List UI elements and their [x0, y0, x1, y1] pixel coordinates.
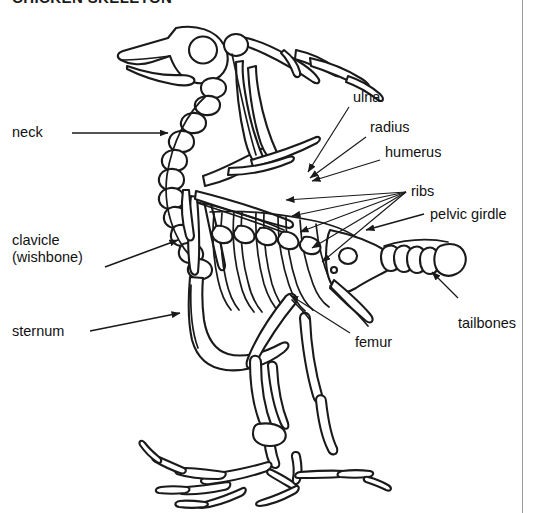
radius-leader-line [310, 137, 366, 178]
label-radius: radius [370, 119, 410, 136]
figure-page: CHICKEN SKELETON [0, 0, 541, 513]
ribs-leader-line-5 [322, 192, 406, 262]
femur-leader-line [290, 295, 350, 333]
humerus-leader-line [312, 160, 380, 181]
label-pelvic-girdle: pelvic girdle [430, 206, 507, 223]
ulna-leader-line [308, 107, 349, 172]
pelvic-girdle-leader-line [366, 214, 424, 230]
ribs-leader-line-4 [312, 192, 406, 248]
label-tailbones: tailbones [458, 315, 516, 332]
label-clavicle-line1: clavicle [12, 232, 112, 249]
label-ribs: ribs [411, 183, 434, 200]
label-ulna: ulna [353, 89, 380, 106]
label-femur: femur [355, 334, 392, 351]
clavicle-leader-line [105, 240, 178, 267]
sternum-leader-line [90, 313, 180, 331]
label-humerus: humerus [385, 144, 441, 161]
label-sternum: sternum [12, 323, 64, 340]
label-clavicle-line2: (wishbone) [12, 249, 112, 266]
tailbones-leader-line [432, 272, 458, 298]
label-clavicle: clavicle (wishbone) [12, 232, 112, 266]
ribs-fan-leader-lines [286, 192, 406, 262]
label-neck: neck [12, 124, 43, 141]
